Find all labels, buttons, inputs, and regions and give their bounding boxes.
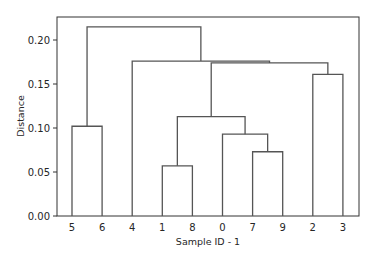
x-axis-label: Sample ID - 1	[176, 236, 240, 247]
dendrogram-links	[72, 27, 343, 216]
x-tick-label: 1	[159, 222, 165, 233]
y-tick-label: 0.20	[28, 35, 50, 46]
dendrogram-chart: 0.000.050.100.150.20 5641807923 Sample I…	[0, 0, 378, 255]
y-tick-label: 0.00	[28, 211, 50, 222]
y-tick-label: 0.10	[28, 123, 50, 134]
x-tick-label: 9	[280, 222, 286, 233]
y-axis-label: Distance	[15, 95, 26, 137]
dendrogram-link	[211, 63, 328, 117]
y-tick-label: 0.05	[28, 167, 50, 178]
x-tick-label: 4	[129, 222, 135, 233]
dendrogram-link	[162, 166, 192, 216]
y-tick-label: 0.15	[28, 79, 50, 90]
x-tick-label: 2	[310, 222, 316, 233]
x-tick-label: 7	[249, 222, 255, 233]
x-axis: 5641807923	[69, 222, 346, 233]
x-tick-label: 8	[189, 222, 195, 233]
dendrogram-link	[87, 27, 201, 126]
dendrogram-link	[72, 126, 102, 216]
x-tick-label: 6	[99, 222, 105, 233]
dendrogram-link	[253, 152, 283, 216]
y-axis: 0.000.050.100.150.20	[28, 35, 57, 222]
dendrogram-link	[313, 74, 343, 216]
x-tick-label: 3	[340, 222, 346, 233]
x-tick-label: 5	[69, 222, 75, 233]
dendrogram-link	[223, 134, 268, 216]
dendrogram-link	[132, 61, 269, 216]
dendrogram-link	[177, 117, 245, 166]
x-tick-label: 0	[219, 222, 225, 233]
